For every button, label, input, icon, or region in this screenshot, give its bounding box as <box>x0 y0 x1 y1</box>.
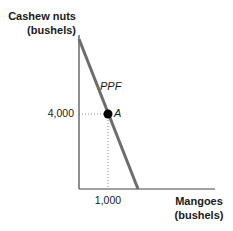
y-tick-label: 4,000 <box>30 107 74 119</box>
point-a <box>104 110 113 119</box>
x-tick-label: 1,000 <box>88 194 128 206</box>
ppf-label: PPF <box>100 80 121 92</box>
point-a-label: A <box>114 107 121 119</box>
